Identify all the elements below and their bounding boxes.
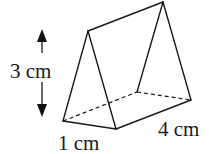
front-left-edge [63,31,88,121]
back-right-edge [163,2,191,100]
front-right-edge [88,31,116,129]
height-arrow-down [37,82,47,117]
top-ridge-edge [88,2,163,31]
hidden-bottom-left-length-edge [63,92,137,121]
back-left-edge [137,2,163,92]
front-face [63,31,116,129]
front-bottom-edge [63,121,116,129]
length-label: 4 cm [158,117,199,141]
height-arrow-up [37,29,47,53]
hidden-back-bottom-edge [137,92,191,100]
arrow-up-icon [37,29,47,42]
height-label: 3 cm [10,59,51,83]
triangular-prism-diagram: 3 cm 1 cm 4 cm [0,0,209,154]
arrow-down-icon [37,104,47,117]
base-width-label: 1 cm [58,131,99,154]
